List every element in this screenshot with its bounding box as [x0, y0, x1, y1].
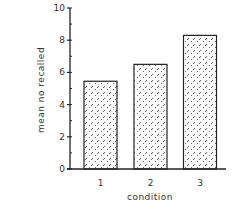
x-tick-label: 2	[148, 178, 154, 188]
bar-condition-2	[134, 64, 167, 169]
y-tick-label: 0	[59, 164, 65, 174]
bar-chart: 0246810 123 condition mean no recalled	[0, 0, 234, 205]
y-axis-label: mean no recalled	[36, 47, 46, 133]
y-tick-label: 4	[59, 100, 65, 110]
y-tick-label: 10	[54, 3, 66, 13]
y-tick-label: 2	[59, 132, 65, 142]
y-tick-label: 6	[59, 67, 65, 77]
bars-group	[84, 35, 217, 169]
y-tick-label: 8	[59, 35, 65, 45]
x-tick-label: 3	[197, 178, 203, 188]
x-tick-label: 1	[98, 178, 104, 188]
bar-condition-3	[184, 35, 217, 169]
bar-condition-1	[84, 81, 117, 169]
y-axis: 0246810	[54, 3, 72, 174]
x-axis-label: condition	[127, 192, 173, 202]
x-axis: 123	[67, 169, 226, 188]
